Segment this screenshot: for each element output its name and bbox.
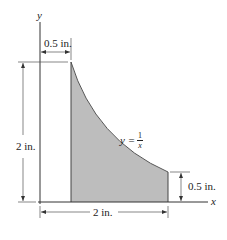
dim-bottom-width: 2 in.: [93, 207, 113, 218]
equation-lhs: y =: [120, 135, 135, 146]
y-axis-label: y: [37, 10, 42, 21]
dim-right-height: 0.5 in.: [188, 181, 216, 192]
x-axis-label: x: [211, 196, 216, 207]
curve-equation: y = 1 x: [120, 131, 143, 150]
dim-top-width: 0.5 in.: [44, 38, 72, 49]
equation-numerator: 1: [137, 131, 143, 141]
dim-left-height: 2 in.: [16, 141, 36, 152]
equation-denominator: x: [138, 141, 142, 150]
diagram-canvas: [0, 0, 227, 240]
